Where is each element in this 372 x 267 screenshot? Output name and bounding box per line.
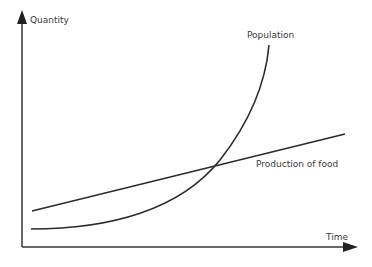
food-production-label: Production of food <box>256 159 338 169</box>
y-axis-arrow-icon <box>17 10 27 24</box>
x-axis-label: Time <box>326 232 348 242</box>
food-production-line <box>32 134 345 211</box>
population-curve <box>31 45 269 229</box>
x-axis-arrow-icon <box>343 242 358 252</box>
y-axis-label: Quantity <box>30 15 69 25</box>
population-label: Population <box>247 30 294 40</box>
chart-canvas <box>0 0 372 267</box>
